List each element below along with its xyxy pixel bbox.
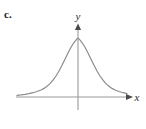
x-axis-arrow-icon xyxy=(126,94,133,100)
y-axis-arrow-icon xyxy=(75,24,81,31)
figure-container: c. y x xyxy=(0,0,146,129)
y-axis-label: y xyxy=(75,10,81,22)
plot-area: y x xyxy=(0,0,146,129)
x-axis-label: x xyxy=(134,91,140,103)
curve-path xyxy=(17,38,127,95)
